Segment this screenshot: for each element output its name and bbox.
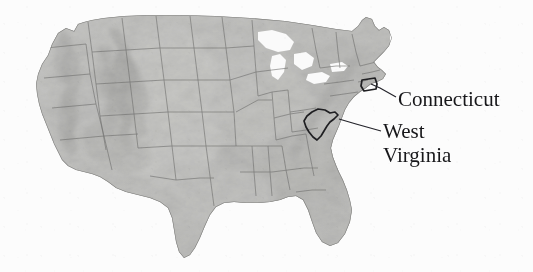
label-connecticut: Connecticut <box>398 87 500 111</box>
us-relief-map-figure: Connecticut West Virginia <box>0 0 533 272</box>
label-west-virginia-line-2: Virginia <box>383 143 452 167</box>
label-west-virginia-line-1: West <box>383 119 425 143</box>
map-canvas: Connecticut West Virginia <box>0 0 533 272</box>
